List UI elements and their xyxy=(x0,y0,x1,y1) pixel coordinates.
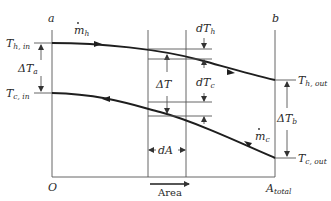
delta-tb-label: ΔTb xyxy=(276,112,297,126)
delta-ta-label: ΔTa xyxy=(17,62,38,76)
mh-dot-icon xyxy=(77,22,79,24)
mc-label: mc xyxy=(255,130,270,144)
heat-exchanger-diagram: a b Th, in Tc, in ΔTa mh mc dTh dTc ΔT d… xyxy=(0,0,331,201)
cold-flow-arrow-icon xyxy=(102,96,110,102)
dth-label: dTh xyxy=(196,22,215,36)
origin-label: O xyxy=(48,181,57,194)
tc-out-label: Tc, out xyxy=(298,152,328,166)
delta-t-label: ΔT xyxy=(155,78,173,91)
dtc-label: dTc xyxy=(196,76,215,90)
area-axis-label: Area xyxy=(157,187,182,198)
station-a-label: a xyxy=(48,12,55,25)
station-b-label: b xyxy=(272,12,279,25)
mh-label: mh xyxy=(74,24,89,38)
th-in-label: Th, in xyxy=(6,37,30,51)
th-out-label: Th, out xyxy=(298,74,328,88)
da-label: dA xyxy=(158,144,173,157)
tc-in-label: Tc, in xyxy=(6,87,30,101)
mc-dot-icon xyxy=(258,128,260,130)
hot-flow-arrow-icon xyxy=(94,41,102,47)
area-total-label: Atotal xyxy=(265,182,292,196)
